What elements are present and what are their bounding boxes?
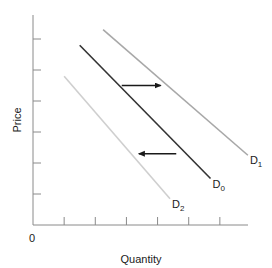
demand-curve-d2 — [64, 76, 170, 198]
origin-label: 0 — [29, 232, 35, 244]
demand-curve-d1 — [103, 30, 248, 156]
x-axis-label: Quantity — [121, 253, 162, 265]
y-axis-label: Price — [11, 107, 23, 132]
series: D1D0D2 — [64, 30, 263, 213]
curve-label-d2: D2 — [172, 198, 185, 213]
curve-label-d0: D0 — [213, 178, 226, 193]
demand-shift-chart: D1D0D2 0 Quantity Price — [0, 0, 272, 268]
ticks — [33, 39, 220, 225]
axes — [33, 15, 248, 225]
curve-label-d1: D1 — [250, 154, 263, 169]
